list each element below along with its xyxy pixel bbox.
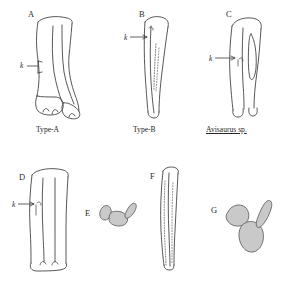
- caption-a: Type-A: [36, 126, 59, 134]
- caption-c: Avisaurus sp.: [206, 126, 247, 134]
- specimen-c: [224, 14, 268, 120]
- panel-letter-a: A: [28, 10, 34, 19]
- leader-line-d: [18, 201, 37, 209]
- panel-letter-d: D: [19, 173, 25, 182]
- specimen-g: [220, 198, 276, 258]
- panel-letter-g: G: [211, 206, 217, 215]
- panel-letter-f: F: [150, 172, 155, 181]
- leader-line-c: [215, 55, 238, 63]
- annotation-k-b: k: [124, 34, 127, 42]
- specimen-b: [139, 14, 173, 120]
- panel-letter-e: E: [85, 209, 90, 218]
- specimen-e: [94, 200, 142, 234]
- leader-line-a: [27, 60, 49, 78]
- annotation-k-a: k: [20, 62, 23, 70]
- caption-b: Type-B: [133, 126, 156, 134]
- figure-plate: A k Type-A B k: [0, 0, 287, 286]
- leader-line-b: [130, 34, 150, 42]
- panel-letter-c: C: [226, 10, 232, 19]
- panel-letter-b: B: [139, 10, 145, 19]
- specimen-d: [22, 165, 76, 273]
- annotation-k-c: k: [209, 55, 212, 63]
- specimen-f: [157, 165, 183, 271]
- annotation-k-d: k: [12, 201, 15, 209]
